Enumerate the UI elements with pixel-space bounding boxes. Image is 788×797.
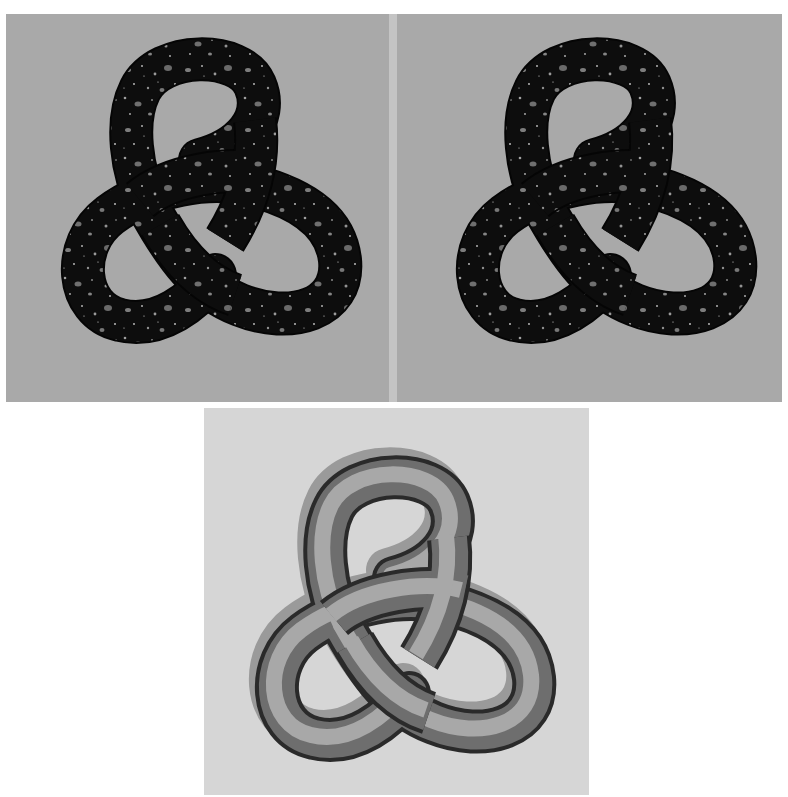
trefoil-knot-speckled-left (6, 14, 389, 402)
panel-divider (389, 14, 397, 402)
knot-panel-smooth-shaded (204, 408, 589, 795)
trefoil-knot-smooth (204, 408, 589, 795)
knot-panel-speckled-right (397, 14, 782, 402)
trefoil-knot-speckled-right (397, 14, 782, 402)
knot-panel-speckled-left (6, 14, 389, 402)
